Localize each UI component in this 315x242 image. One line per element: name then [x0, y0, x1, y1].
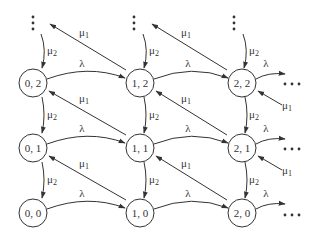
label-mu1: μ1 — [181, 92, 191, 106]
hdots-row2 — [284, 83, 301, 86]
label-mu2: μ2 — [249, 173, 259, 187]
edge-lambda-12-22 — [154, 71, 228, 79]
label-mu1: μ1 — [282, 99, 292, 113]
svg-text:μ1: μ1 — [181, 92, 191, 106]
svg-text:μ2: μ2 — [149, 108, 159, 122]
edge-lambda-10-20 — [154, 201, 228, 209]
hdots-row0 — [284, 214, 301, 217]
label-mu2: μ2 — [47, 173, 57, 187]
label-mu2: μ2 — [249, 108, 259, 122]
edge-mu2-01-00 — [42, 162, 44, 198]
svg-text:μ1: μ1 — [181, 26, 191, 40]
edge-lambda-20-out — [256, 204, 285, 209]
svg-text:μ1: μ1 — [79, 26, 89, 40]
svg-text:μ1: μ1 — [181, 157, 191, 171]
label-lambda: λ — [185, 122, 191, 134]
svg-text:0, 1: 0, 1 — [25, 142, 42, 154]
label-mu2: μ2 — [47, 108, 57, 122]
svg-text:2, 1: 2, 1 — [234, 142, 251, 154]
edge-mu2-22-21 — [245, 97, 247, 133]
state-node-1-0: 1, 0 — [126, 199, 154, 227]
edge-lambda-02-12 — [47, 71, 125, 79]
svg-text:μ2: μ2 — [149, 44, 159, 58]
state-node-0-2: 0, 2 — [19, 69, 47, 97]
edge-mu2-top-0 — [41, 34, 44, 68]
label-mu2: μ2 — [149, 173, 159, 187]
edge-mu1-20-11 — [156, 156, 227, 200]
edge-lambda-01-11 — [47, 136, 125, 144]
label-mu2: μ2 — [47, 44, 57, 58]
edge-mu2-11-10 — [144, 162, 146, 198]
svg-text:2, 2: 2, 2 — [234, 77, 251, 89]
label-lambda: λ — [263, 122, 269, 134]
label-lambda: λ — [185, 57, 191, 69]
state-node-2-0: 2, 0 — [228, 199, 256, 227]
label-mu1: μ1 — [282, 164, 292, 178]
edge-mu2-21-20 — [245, 162, 247, 198]
edge-lambda-21-out — [256, 139, 285, 144]
label-mu2: μ2 — [249, 44, 259, 58]
state-node-2-1: 2, 1 — [228, 134, 256, 162]
svg-text:μ1: μ1 — [79, 92, 89, 106]
edge-mu1-21-12 — [156, 91, 227, 135]
label-mu1: μ1 — [79, 157, 89, 171]
edge-mu2-12-11 — [144, 97, 146, 133]
svg-text:μ2: μ2 — [249, 173, 259, 187]
label-mu2: μ2 — [149, 108, 159, 122]
label-mu2: μ2 — [149, 44, 159, 58]
svg-text:μ2: μ2 — [249, 44, 259, 58]
label-lambda: λ — [263, 57, 269, 69]
vdots-col2 — [233, 16, 236, 31]
svg-text:1, 2: 1, 2 — [132, 77, 149, 89]
state-node-2-2: 2, 2 — [228, 69, 256, 97]
hdots-row1 — [284, 148, 301, 151]
label-lambda: λ — [185, 187, 191, 199]
svg-text:1, 1: 1, 1 — [132, 142, 149, 154]
state-node-1-2: 1, 2 — [126, 69, 154, 97]
label-lambda: λ — [79, 57, 85, 69]
svg-text:0, 0: 0, 0 — [25, 207, 42, 219]
edge-lambda-11-21 — [154, 136, 228, 144]
svg-text:μ2: μ2 — [249, 108, 259, 122]
svg-text:0, 2: 0, 2 — [25, 77, 42, 89]
svg-text:μ2: μ2 — [47, 108, 57, 122]
state-diagram: 0, 2 1, 2 2, 2 0, 1 1, 1 2, 1 0, 0 1, 0 … — [0, 0, 315, 242]
state-node-0-0: 0, 0 — [19, 199, 47, 227]
svg-text:μ2: μ2 — [149, 173, 159, 187]
svg-text:μ1: μ1 — [79, 157, 89, 171]
label-lambda: λ — [79, 187, 85, 199]
label-lambda: λ — [263, 187, 269, 199]
edge-mu2-02-01 — [42, 97, 44, 133]
vdots-col1 — [133, 16, 136, 31]
svg-text:μ1: μ1 — [282, 99, 292, 113]
vdots-col0 — [32, 16, 35, 31]
edge-mu2-top-2 — [243, 34, 246, 68]
svg-text:1, 0: 1, 0 — [132, 207, 149, 219]
svg-text:μ1: μ1 — [282, 164, 292, 178]
edge-mu1-in-22 — [258, 91, 282, 105]
svg-text:μ2: μ2 — [47, 173, 57, 187]
label-mu1: μ1 — [181, 26, 191, 40]
edge-lambda-00-10 — [47, 201, 125, 209]
state-node-1-1: 1, 1 — [126, 134, 154, 162]
edge-mu1-in-21 — [258, 156, 282, 170]
svg-text:μ2: μ2 — [47, 44, 57, 58]
label-mu1: μ1 — [79, 92, 89, 106]
label-mu1: μ1 — [79, 26, 89, 40]
label-lambda: λ — [79, 122, 85, 134]
label-mu1: μ1 — [181, 157, 191, 171]
edge-lambda-22-out — [256, 74, 285, 79]
edge-mu2-top-1 — [143, 34, 146, 68]
state-node-0-1: 0, 1 — [19, 134, 47, 162]
svg-text:2, 0: 2, 0 — [234, 207, 251, 219]
